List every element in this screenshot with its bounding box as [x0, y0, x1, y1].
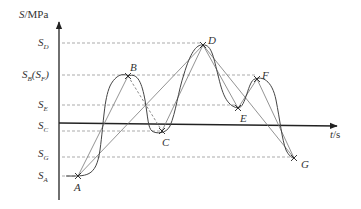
point-label-e: E [240, 113, 247, 124]
level-label-sa-sub: A [44, 176, 48, 184]
x-axis-title-unit: /s [333, 128, 340, 140]
chord-a-d [78, 45, 203, 176]
level-label-sc: SC [38, 120, 48, 134]
level-label-sa: SA [38, 170, 48, 184]
marker-b [125, 73, 131, 79]
level-label-paren-close: ) [45, 68, 49, 80]
level-label-sb-sf: SB(SF) [22, 69, 49, 83]
point-label-a: A [74, 182, 81, 193]
point-label-c: C [162, 137, 169, 148]
point-label-b: B [130, 62, 137, 73]
chord-d-g [203, 45, 294, 158]
level-label-sg: SG [38, 148, 49, 162]
level-label-sd: SD [38, 37, 49, 51]
x-axis-title: t/s [330, 128, 340, 140]
stress-time-diagram [0, 0, 361, 209]
level-label-se-sub: E [44, 105, 48, 113]
chord-b-c-dashed [128, 76, 162, 131]
chord-c-d [162, 45, 203, 131]
stress-curve [66, 45, 294, 176]
x-axis [59, 123, 337, 126]
point-label-g: G [301, 159, 309, 170]
level-label-sg-sub: G [44, 154, 49, 162]
level-label-sd-sub: D [44, 43, 49, 51]
level-label-sc-sub: C [44, 126, 49, 134]
point-label-f: F [262, 70, 269, 81]
y-axis-title-unit: /MPa [25, 8, 49, 20]
chord-d-e [203, 45, 238, 108]
level-label-se: SE [38, 99, 48, 113]
point-label-d: D [208, 35, 216, 46]
y-axis-title: S/MPa [19, 8, 48, 20]
chord-lines [78, 45, 294, 176]
